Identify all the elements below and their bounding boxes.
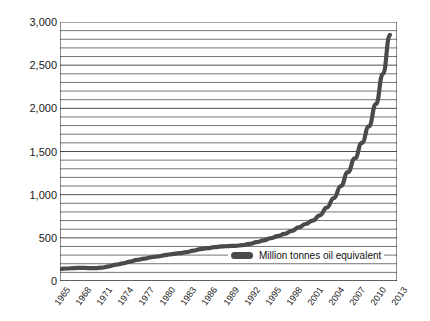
- y-axis-label: 1,500: [29, 146, 57, 158]
- x-axis-tick-labels: 1965196819711974197719801983198619891992…: [60, 281, 397, 321]
- y-axis-label: 0: [51, 275, 57, 287]
- y-axis-label: 500: [39, 232, 57, 244]
- legend-label: Million tonnes oil equivalent: [259, 250, 381, 261]
- x-axis-label: 1974: [116, 285, 136, 307]
- x-axis-label: 1995: [263, 285, 283, 307]
- x-axis-label: 1977: [137, 285, 157, 307]
- x-axis-label: 1986: [200, 285, 220, 307]
- y-axis-label: 3,000: [29, 16, 57, 28]
- y-axis-label: 2,000: [29, 102, 57, 114]
- x-axis-label: 2004: [326, 285, 346, 307]
- x-axis-label: 2007: [347, 285, 367, 307]
- y-axis-label: 1,000: [29, 189, 57, 201]
- y-axis-label: 2,500: [29, 59, 57, 71]
- chart-container: 05001,0001,5002,0002,5003,000 1965196819…: [0, 0, 430, 321]
- chart-legend: Million tonnes oil equivalent: [228, 249, 384, 262]
- x-axis-label: 1989: [221, 285, 241, 307]
- x-axis-label: 1971: [95, 285, 115, 307]
- legend-swatch-icon: [231, 252, 253, 259]
- x-axis-label: 1968: [74, 285, 94, 307]
- x-axis-label: 2013: [390, 285, 410, 307]
- x-axis-label: 1992: [242, 285, 262, 307]
- x-axis-label: 1980: [158, 285, 178, 307]
- x-axis-label: 1965: [53, 285, 73, 307]
- x-axis-label: 2010: [368, 285, 388, 307]
- x-axis-label: 2001: [305, 285, 325, 307]
- plot-area: [60, 22, 397, 281]
- x-axis-label: 1983: [179, 285, 199, 307]
- y-axis-tick-labels: 05001,0001,5002,0002,5003,000: [0, 22, 57, 281]
- x-axis-label: 1998: [284, 285, 304, 307]
